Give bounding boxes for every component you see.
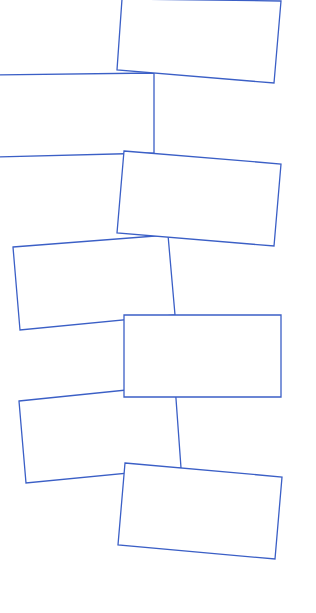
rect-3 xyxy=(117,151,281,246)
shape-layer xyxy=(0,0,282,559)
rect-7 xyxy=(118,463,282,559)
diagram-canvas xyxy=(0,0,316,613)
rect-2 xyxy=(0,73,154,157)
stacked-rectangles-diagram xyxy=(0,0,316,613)
rect-5 xyxy=(124,315,281,397)
rect-1 xyxy=(117,0,281,83)
